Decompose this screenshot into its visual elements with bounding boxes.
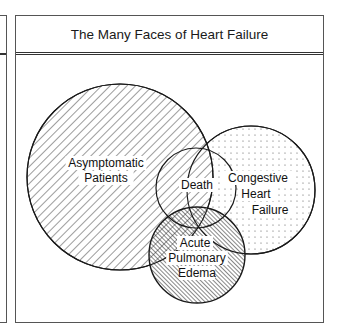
set-label-congestive: Congestive — [228, 171, 288, 185]
set-label-edema: Edema — [178, 266, 216, 280]
set-label-death: Death — [181, 178, 213, 192]
set-label-edema: Acute — [180, 236, 211, 250]
set-label-asymptomatic: Patients — [84, 171, 127, 185]
set-label-congestive: Heart — [241, 187, 271, 201]
venn-diagram: AsymptomaticPatientsCongestiveHeartFailu… — [0, 0, 340, 330]
set-label-congestive: Failure — [252, 203, 289, 217]
set-label-asymptomatic: Asymptomatic — [68, 156, 143, 170]
set-label-edema: Pulmonary — [168, 251, 225, 265]
